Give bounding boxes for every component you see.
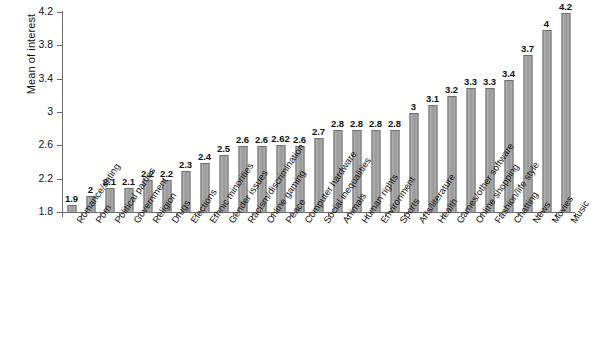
y-axis-tick-label: 1.8: [38, 205, 53, 217]
bar-item: 2.4: [195, 12, 214, 213]
bar-value-label: 3: [411, 101, 416, 112]
y-axis-tick-label: 3.8: [38, 38, 53, 50]
bar-value-label: 2.62: [271, 133, 290, 144]
bar-value-label: 2.6: [255, 134, 268, 145]
bar-value-label: 2.4: [198, 151, 211, 162]
y-axis-tick-label: 4.2: [38, 5, 53, 17]
y-axis-tick-label: 2.6: [38, 138, 53, 150]
bar-value-label: 3.2: [445, 84, 458, 95]
y-axis-title: Mean of interest: [25, 0, 37, 129]
bar-value-label: 2.5: [217, 143, 230, 154]
bar-value-label: 2.6: [236, 134, 249, 145]
y-axis-tick-label: 2.2: [38, 172, 53, 184]
bar-value-label: 3.3: [483, 76, 496, 87]
bar-value-label: 2.8: [350, 118, 363, 129]
bar-value-label: 3.7: [521, 43, 534, 54]
y-axis-tick-label: 3: [47, 105, 53, 117]
bar-item: 4.2: [556, 12, 575, 213]
bar: [447, 96, 456, 213]
bar-value-label: 2.7: [312, 126, 325, 137]
bar-value-label: 2.8: [388, 118, 401, 129]
x-axis-tick-mark: [62, 213, 63, 217]
bar-value-label: 1.9: [65, 193, 78, 204]
bar-item: 1.9: [62, 12, 81, 213]
bar-item: 2.3: [176, 12, 195, 213]
bar: [542, 30, 551, 213]
bar: [561, 13, 570, 213]
bar-item: 4: [537, 12, 556, 213]
bar: [67, 205, 76, 213]
bar-value-label: 2.3: [179, 159, 192, 170]
bar-value-label: 4.2: [559, 1, 572, 12]
bar-value-label: 3.3: [464, 76, 477, 87]
x-axis-labels: Romance/datingPornPolitical partiesGover…: [62, 219, 575, 349]
bar-value-label: 2.8: [331, 118, 344, 129]
y-axis-tick-label: 3.4: [38, 72, 53, 84]
bar-value-label: 2.8: [369, 118, 382, 129]
bar-value-label: 4: [544, 18, 549, 29]
bar-value-label: 3.4: [502, 68, 515, 79]
bar-value-label: 3.1: [426, 93, 439, 104]
